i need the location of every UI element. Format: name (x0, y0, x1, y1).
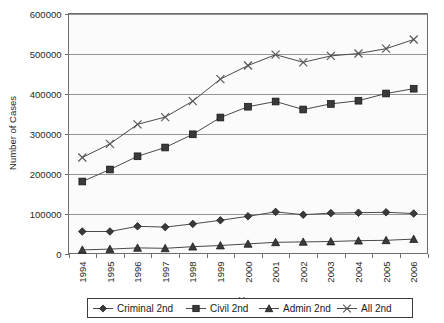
x-tick-label: 2002 (298, 262, 309, 283)
x-tick-label: 2003 (325, 262, 336, 283)
y-axis-title: Number of Cases (7, 96, 18, 170)
x-tick-label: 2006 (408, 262, 419, 283)
legend-label: All 2nd (361, 303, 392, 314)
data-point (383, 90, 390, 97)
y-tick-label: 200000 (30, 169, 62, 180)
line-chart: 0100000200000300000400000500000600000 19… (0, 0, 444, 323)
data-point (134, 153, 141, 160)
x-tick-label-group: 1994199519961997199819992000200120022003… (77, 262, 419, 283)
data-point (217, 114, 224, 121)
square-marker-icon (193, 305, 199, 311)
data-point (300, 106, 307, 113)
x-tick-group (70, 254, 429, 258)
x-tick-label: 2000 (243, 262, 254, 283)
data-point (162, 144, 169, 151)
x-tick-label: 1998 (187, 262, 198, 283)
y-tick-label: 300000 (30, 129, 62, 140)
x-tick-label: 1999 (215, 262, 226, 283)
x-tick-label: 2005 (381, 262, 392, 283)
y-tick-label: 0 (56, 249, 61, 260)
x-tick-label: 1994 (77, 262, 88, 283)
data-point (355, 97, 362, 104)
y-tick-label: 500000 (30, 49, 62, 60)
legend-label: Admin 2nd (283, 303, 331, 314)
x-tick-label: 1997 (160, 262, 171, 283)
x-tick-label: 2004 (353, 262, 364, 283)
data-point (272, 98, 279, 105)
legend: Criminal 2ndCivil 2ndAdmin 2ndAll 2nd (88, 299, 413, 318)
data-point (245, 103, 252, 110)
legend-label: Criminal 2nd (117, 303, 173, 314)
legend-label: Civil 2nd (210, 303, 248, 314)
x-tick-label: 1996 (132, 262, 143, 283)
data-point (410, 85, 417, 92)
x-tick-label: 2001 (270, 262, 281, 283)
y-tick-label: 100000 (30, 209, 62, 220)
x-tick-label: 1995 (105, 262, 116, 283)
y-tick-label: 600000 (30, 9, 62, 20)
data-point (79, 178, 86, 185)
y-tick-label: 400000 (30, 89, 62, 100)
data-point (189, 131, 196, 138)
y-tick-group (65, 15, 69, 255)
y-tick-label-group: 0100000200000300000400000500000600000 (30, 9, 62, 260)
data-point (327, 101, 334, 108)
data-point (107, 166, 114, 173)
chart-canvas: 0100000200000300000400000500000600000 19… (0, 0, 444, 323)
